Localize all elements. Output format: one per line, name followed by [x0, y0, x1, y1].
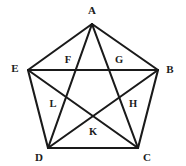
vertex-label-K: K [89, 126, 97, 137]
side-AB [92, 24, 158, 70]
vertex-label-G: G [115, 54, 123, 65]
diagonal-AD [48, 24, 92, 148]
geometry-figure: A B C D E F G H K L [0, 0, 186, 166]
pentagon-pentagram-drawing [0, 0, 186, 166]
vertex-label-C: C [143, 152, 151, 163]
diagonal-AC [92, 24, 138, 148]
side-EA [28, 24, 92, 70]
vertex-label-L: L [49, 98, 56, 109]
vertex-label-F: F [65, 54, 71, 65]
vertex-label-D: D [35, 152, 43, 163]
vertex-label-E: E [11, 63, 18, 74]
vertex-label-A: A [88, 5, 96, 16]
vertex-label-B: B [166, 64, 173, 75]
vertex-label-H: H [129, 98, 137, 109]
